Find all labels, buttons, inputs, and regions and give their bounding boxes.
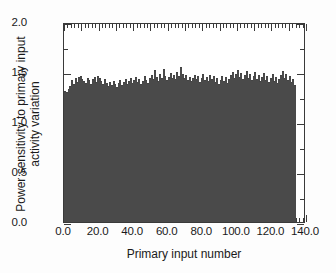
- y-tick-label: 2.0: [12, 17, 27, 29]
- y-major-tick: [297, 224, 304, 225]
- y-tick-label: 0.0: [12, 217, 27, 229]
- x-tick-label: 140.0: [291, 226, 319, 238]
- chart-figure: Power sensitivity to primary input activ…: [0, 0, 336, 273]
- y-tick-label: 1.5: [12, 67, 27, 79]
- plot-area: [63, 23, 305, 223]
- y-tick-label: 1.0: [12, 117, 27, 129]
- x-tick-label: 40.0: [121, 226, 143, 238]
- y-tick-label: 0.5: [12, 167, 27, 179]
- bar: [294, 85, 296, 222]
- bar-series: [64, 24, 304, 222]
- x-tick-label: 0.0: [55, 226, 70, 238]
- x-tick-label: 20.0: [87, 226, 109, 238]
- x-major-tick: [306, 215, 307, 222]
- x-major-tick: [306, 24, 307, 31]
- x-tick-label: 100.0: [222, 226, 250, 238]
- y-axis-title-line-2: activity variation: [28, 24, 42, 224]
- y-major-tick: [64, 224, 71, 225]
- x-axis-title: Primary input number: [63, 247, 305, 261]
- x-tick-label: 60.0: [156, 226, 178, 238]
- x-tick-label: 120.0: [257, 226, 285, 238]
- x-tick-label: 80.0: [190, 226, 212, 238]
